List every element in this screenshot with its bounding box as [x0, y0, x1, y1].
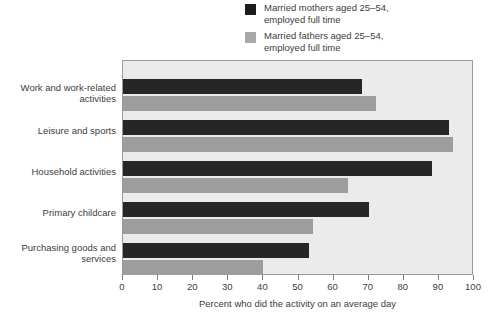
x-tick-label-60: 60 — [327, 281, 338, 292]
legend-label-fathers: Married fathers aged 25–54, employed ful… — [264, 30, 383, 53]
bar-mothers-4 — [123, 243, 309, 258]
legend-label-mothers: Married mothers aged 25–54, employed ful… — [264, 2, 389, 25]
bar-fathers-3 — [123, 219, 313, 234]
x-tick-label-70: 70 — [362, 281, 373, 292]
category-label-childcare: Primary childcare — [0, 207, 116, 218]
x-axis: 0102030405060708090100 — [122, 275, 473, 276]
x-tick-30 — [227, 275, 228, 280]
x-tick-10 — [157, 275, 158, 280]
x-tick-label-10: 10 — [152, 281, 163, 292]
x-tick-50 — [298, 275, 299, 280]
x-tick-20 — [192, 275, 193, 280]
bar-mothers-0 — [123, 79, 362, 94]
x-tick-70 — [368, 275, 369, 280]
chart-container: Married mothers aged 25–54, employed ful… — [0, 0, 494, 321]
legend-item-mothers: Married mothers aged 25–54, employed ful… — [245, 2, 475, 25]
x-tick-label-0: 0 — [119, 281, 124, 292]
x-tick-90 — [438, 275, 439, 280]
x-axis-title: Percent who did the activity on an avera… — [122, 298, 473, 309]
bar-fathers-2 — [123, 178, 348, 193]
x-tick-label-80: 80 — [398, 281, 409, 292]
chart-legend: Married mothers aged 25–54, employed ful… — [245, 2, 475, 58]
x-tick-label-100: 100 — [465, 281, 481, 292]
category-label-purchasing: Purchasing goods and services — [0, 242, 116, 264]
bars-layer — [123, 61, 472, 274]
bar-mothers-3 — [123, 202, 369, 217]
x-tick-100 — [473, 275, 474, 280]
x-tick-60 — [333, 275, 334, 280]
x-tick-80 — [403, 275, 404, 280]
plot-area — [122, 60, 473, 275]
bar-mothers-1 — [123, 120, 449, 135]
bar-mothers-2 — [123, 161, 432, 176]
x-tick-label-90: 90 — [433, 281, 444, 292]
category-label-work: Work and work-related activities — [0, 82, 116, 104]
x-tick-0 — [122, 275, 123, 280]
x-tick-40 — [262, 275, 263, 280]
legend-swatch-fathers-icon — [245, 32, 256, 43]
bar-fathers-0 — [123, 96, 376, 111]
bar-fathers-1 — [123, 137, 453, 152]
legend-swatch-mothers-icon — [245, 4, 256, 15]
x-tick-label-30: 30 — [222, 281, 233, 292]
legend-item-fathers: Married fathers aged 25–54, employed ful… — [245, 30, 475, 53]
category-label-household: Household activities — [0, 166, 116, 177]
x-tick-label-50: 50 — [292, 281, 303, 292]
x-tick-label-40: 40 — [257, 281, 268, 292]
category-label-leisure: Leisure and sports — [0, 125, 116, 136]
bar-fathers-4 — [123, 260, 263, 275]
x-tick-label-20: 20 — [187, 281, 198, 292]
